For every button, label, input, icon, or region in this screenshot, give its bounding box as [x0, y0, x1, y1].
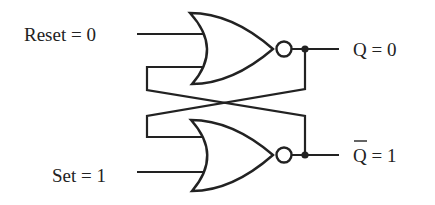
set-input-label: Set = 1	[52, 165, 106, 186]
nor-gate-body-top	[190, 13, 273, 84]
reset-input-label: Reset = 0	[24, 24, 96, 45]
nor-gate-bottom	[191, 120, 292, 191]
q-output-label: Q = 0	[353, 39, 396, 60]
qbar-output-label: Q = 1	[353, 145, 396, 166]
inversion-bubble-top	[277, 42, 292, 57]
inversion-bubble-bottom	[277, 148, 292, 163]
junction-dot-q	[301, 45, 308, 52]
nor-gate-body-bottom	[191, 120, 273, 191]
sr-latch-diagram: Reset = 0 Set = 1 Q = 0 Q = 1	[0, 0, 435, 205]
junction-dot-qbar	[301, 151, 308, 158]
nor-gate-top	[190, 13, 292, 84]
